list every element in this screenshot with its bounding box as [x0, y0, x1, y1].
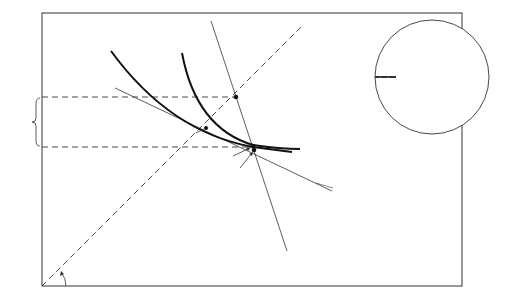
u-h-curve: [182, 53, 300, 149]
point-h: [204, 126, 208, 130]
arrow-ie: [240, 153, 252, 168]
diagram-canvas: [0, 0, 509, 297]
u-l-curve: [111, 51, 292, 152]
certainty-point: [234, 95, 239, 100]
point-ie: [252, 148, 257, 153]
low-premium-line: [211, 21, 287, 251]
certainty-line-45deg: [42, 26, 302, 286]
inset-magnified-view: [372, 20, 489, 134]
insurance-indifference-diagram: [0, 0, 509, 297]
d-brace: [32, 98, 40, 146]
point-l: [251, 144, 256, 149]
